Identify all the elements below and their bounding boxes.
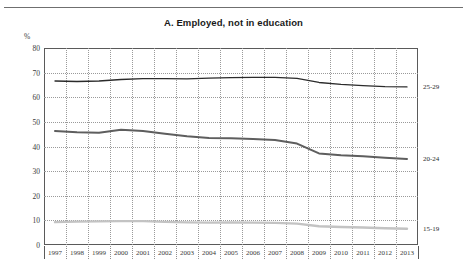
header-rule [4, 7, 463, 8]
y-tick-20: 20 [10, 191, 40, 200]
x-tick-2012: 2012 [378, 249, 392, 257]
line-series-15-19 [55, 221, 407, 229]
x-tick-mark-2011 [352, 246, 353, 259]
x-tick-1999: 1999 [92, 249, 106, 257]
x-tick-mark-2002 [154, 246, 155, 259]
x-tick-2011: 2011 [356, 249, 370, 257]
x-tick-mark-2009 [308, 246, 309, 259]
clipped-header [0, 0, 467, 7]
x-tick-1998: 1998 [70, 249, 84, 257]
x-tick-mark-2013 [396, 246, 397, 259]
y-axis-tick-labels: 01020304050607080 [8, 48, 40, 245]
chart-page: A. Employed, not in education % 01020304… [0, 0, 467, 274]
y-tick-40: 40 [10, 142, 40, 151]
series-lines [44, 48, 418, 245]
x-tick-mark-1999 [88, 246, 89, 259]
x-tick-2007: 2007 [268, 249, 282, 257]
x-tick-mark-2010 [330, 246, 331, 259]
x-tick-2004: 2004 [202, 249, 216, 257]
x-tick-2006: 2006 [246, 249, 260, 257]
x-tick-mark-2004 [198, 246, 199, 259]
x-axis: 1997199819992000200120022003200420052006… [44, 246, 418, 262]
x-tick-2005: 2005 [224, 249, 238, 257]
x-tick-mark-2000 [110, 246, 111, 259]
x-tick-2002: 2002 [158, 249, 172, 257]
line-series-20-24 [55, 130, 407, 159]
x-tick-2010: 2010 [334, 249, 348, 257]
line-series-25-29 [55, 77, 407, 87]
x-tick-2008: 2008 [290, 249, 304, 257]
x-tick-2013: 2013 [400, 249, 414, 257]
x-tick-2000: 2000 [114, 249, 128, 257]
y-tick-50: 50 [10, 117, 40, 126]
y-tick-80: 80 [10, 44, 40, 53]
x-tick-2001: 2001 [136, 249, 150, 257]
series-label-15-19: 15-19 [423, 225, 439, 233]
x-tick-mark-1998 [66, 246, 67, 259]
x-tick-mark-2001 [132, 246, 133, 259]
y-tick-10: 10 [10, 216, 40, 225]
x-tick-2003: 2003 [180, 249, 194, 257]
x-tick-mark-2012 [374, 246, 375, 259]
chart-title: A. Employed, not in education [0, 17, 467, 28]
x-tick-1997: 1997 [48, 249, 62, 257]
x-tick-mark-2006 [242, 246, 243, 259]
series-label-25-29: 25-29 [423, 83, 439, 91]
x-tick-2009: 2009 [312, 249, 326, 257]
y-tick-70: 70 [10, 68, 40, 77]
x-tick-mark-2008 [286, 246, 287, 259]
y-axis-unit-label: % [24, 32, 30, 41]
y-tick-30: 30 [10, 167, 40, 176]
x-tick-mark-2003 [176, 246, 177, 259]
x-axis-left-edge [44, 246, 45, 259]
series-label-20-24: 20-24 [423, 155, 439, 163]
y-tick-0: 0 [10, 241, 40, 250]
x-tick-mark-2007 [264, 246, 265, 259]
plot-area [44, 48, 418, 245]
x-axis-right-edge [418, 246, 419, 259]
x-tick-mark-2005 [220, 246, 221, 259]
y-tick-60: 60 [10, 93, 40, 102]
